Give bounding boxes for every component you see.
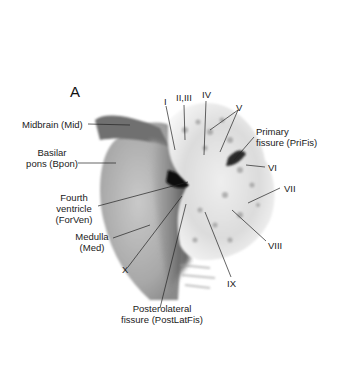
cerebellum-figure: A Midbrain (Mid) Basilar pons (Bpon) Fou…: [0, 0, 360, 379]
label-midbrain: Midbrain (Mid): [22, 119, 83, 130]
label-lobule-vi: VI: [268, 162, 277, 173]
label-lobule-i: I: [164, 96, 167, 107]
label-lobule-x: X: [122, 264, 128, 275]
label-basilar-pons-line2: pons (Bpon): [24, 158, 80, 169]
label-posterolateral-line2: fissure (PostLatFis): [112, 314, 212, 325]
label-basilar-pons-line1: Basilar: [24, 147, 80, 158]
label-medulla-line2: (Med): [74, 242, 110, 253]
label-primary-fissure-line2: fissure (PriFis): [256, 137, 317, 148]
label-lobule-ix: IX: [227, 278, 236, 289]
label-lobule-iv: IV: [202, 89, 211, 100]
label-fourth-ventricle-line2: ventricle: [54, 203, 94, 214]
label-primary-fissure-line1: Primary: [256, 126, 317, 137]
label-lobule-ii-iii: II,III: [176, 92, 192, 103]
lower-ridges: [180, 265, 215, 288]
label-posterolateral-fissure: Posterolateral fissure (PostLatFis): [112, 303, 212, 325]
label-lobule-v: V: [236, 102, 242, 113]
label-primary-fissure: Primary fissure (PriFis): [256, 126, 317, 148]
label-basilar-pons: Basilar pons (Bpon): [24, 147, 80, 169]
label-medulla-line1: Medulla: [74, 231, 110, 242]
label-fourth-ventricle: Fourth ventricle (ForVen): [54, 192, 94, 225]
panel-label: A: [70, 83, 80, 100]
label-medulla: Medulla (Med): [74, 231, 110, 253]
label-lobule-vii: VII: [284, 183, 296, 194]
label-fourth-ventricle-line3: (ForVen): [54, 214, 94, 225]
label-lobule-viii: VIII: [268, 240, 282, 251]
label-posterolateral-line1: Posterolateral: [112, 303, 212, 314]
label-fourth-ventricle-line1: Fourth: [54, 192, 94, 203]
